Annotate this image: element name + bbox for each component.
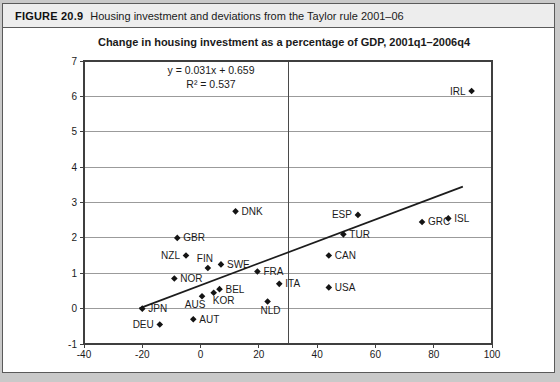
data-point-DEU [156,321,163,328]
data-point-DNK [232,208,239,215]
r-squared-label: R² = 0.537 [186,78,235,90]
y-tick-label: 4 [71,162,77,173]
y-tick-label: -1 [68,339,77,350]
data-point-ESP [355,212,362,219]
data-point-CAN [326,252,333,259]
figure-box: FIGURE 20.9 Housing investment and devia… [2,3,555,373]
data-point-GBR [174,235,181,242]
point-label-ISL: ISL [454,213,469,224]
y-tick-label: 6 [71,91,77,102]
point-label-ESP: ESP [332,209,352,220]
data-point-SWE [218,261,225,268]
chart-area: -101234567-40-20020406080100IRLDNKESPISL… [3,28,554,372]
point-label-NOR: NOR [180,273,202,284]
point-label-DEU: DEU [133,319,154,330]
y-tick-label: 7 [71,56,77,67]
data-point-NZL [183,252,190,259]
y-tick-label: 3 [71,197,77,208]
data-point-USA [326,284,333,291]
y-tick-label: 1 [71,268,77,279]
y-tick-label: 5 [71,126,77,137]
data-point-IRL [468,88,475,95]
point-label-CAN: CAN [335,250,356,261]
x-tick-label: 40 [312,349,324,360]
point-label-NZL: NZL [161,250,180,261]
equation-label: y = 0.031x + 0.659 [168,64,255,76]
y-tick-label: 0 [71,303,77,314]
x-tick-label: 60 [370,349,382,360]
point-label-AUT: AUT [199,314,219,325]
x-tick-label: -40 [77,349,92,360]
point-label-TUR: TUR [349,229,370,240]
chart-title: Change in housing investment as a percen… [98,36,471,48]
point-label-GBR: GBR [183,232,205,243]
point-label-DNK: DNK [242,206,263,217]
point-label-KOR: KOR [213,295,235,306]
data-point-ITA [276,281,283,288]
figure-caption: Housing investment and deviations from t… [90,10,403,22]
x-tick-label: 100 [484,349,501,360]
point-label-FRA: FRA [263,266,283,277]
trend-line [139,187,462,309]
point-label-GRC: GRC [428,216,450,227]
point-label-SWE: SWE [227,259,250,270]
figure-label: FIGURE 20.9 [15,10,83,22]
point-label-USA: USA [335,282,356,293]
point-label-FIN: FIN [197,253,213,264]
data-point-FIN [205,265,212,272]
point-label-ITA: ITA [285,278,300,289]
data-point-AUT [190,316,197,323]
point-label-IRL: IRL [450,86,466,97]
figure-header: FIGURE 20.9 Housing investment and devia… [3,4,554,28]
point-label-AUS: AUS [185,299,206,310]
x-tick-label: 0 [198,349,204,360]
point-label-NLD: NLD [261,305,281,316]
y-tick-label: 2 [71,232,77,243]
scatter-plot: -101234567-40-20020406080100IRLDNKESPISL… [3,28,554,372]
point-label-BEL: BEL [226,284,245,295]
x-tick-label: -20 [135,349,150,360]
data-point-BEL [216,286,223,293]
point-label-JPN: JPN [148,303,167,314]
x-tick-label: 20 [253,349,265,360]
data-point-NOR [171,275,178,282]
data-point-GRC [419,219,426,226]
x-tick-label: 80 [428,349,440,360]
page: FIGURE 20.9 Housing investment and devia… [0,0,560,382]
data-point-FRA [254,268,261,275]
